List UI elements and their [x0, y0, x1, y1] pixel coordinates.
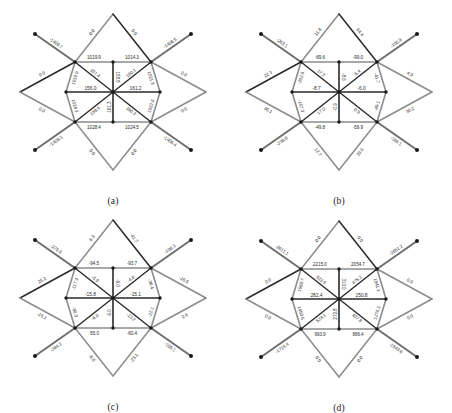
- panel-c-caption: (c): [0, 402, 226, 412]
- panel-b-lattice: -89.6-99.0-49.8-59.9-202.8-107.3-41.7-49…: [226, 0, 452, 190]
- panel-a-caption: (a): [0, 196, 226, 206]
- panel-a: 1019.91014.31028.41024.51016.91024.21021…: [0, 0, 226, 206]
- panel-d: 2215.02054.7993.9886.41988.71453.61841.1…: [226, 207, 452, 413]
- panel-b-caption: (b): [226, 196, 452, 206]
- panel-b: -89.6-99.0-49.8-59.9-202.8-107.3-41.7-49…: [226, 0, 452, 206]
- figure-four-panel-lattice: 1019.91014.31028.41024.51016.91024.21021…: [0, 0, 452, 413]
- panel-a-lattice: 1019.91014.31028.41024.51016.91024.21021…: [0, 0, 226, 190]
- panel-d-lattice: 2215.02054.7993.9886.41988.71453.61841.1…: [226, 207, 452, 397]
- panel-c: -94.5-93.7-55.0-60.4-117.4-80.3-36.4-22.…: [0, 206, 226, 412]
- panel-c-lattice: -94.5-93.7-55.0-60.4-117.4-80.3-36.4-22.…: [0, 206, 226, 396]
- panel-d-caption: (d): [226, 403, 452, 413]
